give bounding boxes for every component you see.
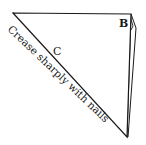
label-c: C <box>53 45 61 58</box>
fold-diagram: B C Crease sharply with nails <box>0 0 146 145</box>
label-b: B <box>119 17 128 30</box>
main-triangle <box>13 13 131 137</box>
